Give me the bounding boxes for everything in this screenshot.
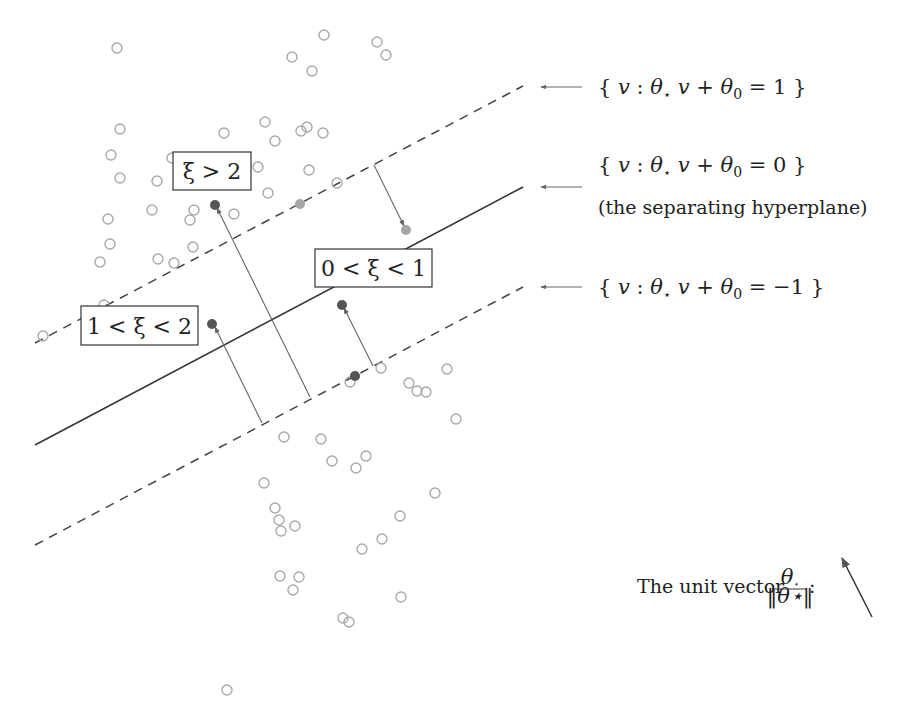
data-point <box>189 205 199 215</box>
data-point <box>106 150 116 160</box>
data-point <box>376 363 386 373</box>
data-point <box>287 52 297 62</box>
data-point <box>115 173 125 183</box>
slack-arrow <box>217 208 310 397</box>
slack-arrow <box>215 327 262 423</box>
data-point <box>442 364 452 374</box>
label-pointer-arrows <box>541 87 582 287</box>
svg-text:{ v : θ⋆ v + θ0 = 1 }: { v : θ⋆ v + θ0 = 1 } <box>598 75 806 102</box>
slack-point <box>207 319 217 329</box>
data-point <box>105 239 115 249</box>
box-xi-1-2: 1 < ξ < 2 <box>81 306 198 345</box>
data-point <box>185 215 195 225</box>
data-point <box>95 257 105 267</box>
data-point <box>395 511 405 521</box>
svg-text:ξ > 2: ξ > 2 <box>183 159 242 184</box>
data-point <box>152 176 162 186</box>
svg-text:0 < ξ < 1: 0 < ξ < 1 <box>321 256 426 281</box>
data-point <box>304 165 314 175</box>
data-point <box>270 503 280 513</box>
data-point <box>451 414 461 424</box>
data-point <box>219 128 229 138</box>
margin-point <box>401 225 411 235</box>
unit-vector-arrow-icon <box>842 558 872 617</box>
hyperplane-sublabel: (the separating hyperplane) <box>598 196 868 218</box>
box-xi-gt-2: ξ > 2 <box>173 152 251 190</box>
upper-margin-label: { v : θ⋆ v + θ0 = 1 } <box>598 75 806 102</box>
data-point <box>115 124 125 134</box>
data-point <box>274 515 284 525</box>
data-point <box>169 258 179 268</box>
data-point <box>318 128 328 138</box>
margin-point <box>295 199 305 209</box>
slack-range-boxes: ξ > 21 < ξ < 20 < ξ < 1 <box>81 152 432 345</box>
data-point <box>288 585 298 595</box>
data-point <box>103 214 113 224</box>
data-point <box>275 571 285 581</box>
slack-point <box>337 300 347 310</box>
box-xi-0-1: 0 < ξ < 1 <box>315 249 432 287</box>
data-point <box>222 685 232 695</box>
data-point <box>307 66 317 76</box>
data-point <box>404 378 414 388</box>
slack-point <box>210 200 220 210</box>
data-point <box>153 254 163 264</box>
unit-vector-label: The unit vector θ⋆ ‖θ⋆‖ : <box>637 565 815 609</box>
data-point <box>147 205 157 215</box>
svm-diagram: ξ > 21 < ξ < 20 < ξ < 1 { v : θ⋆ v + θ0 … <box>0 0 923 723</box>
slack-arrows <box>215 165 404 423</box>
hyperplane-label: { v : θ⋆ v + θ0 = 0 } (the separating hy… <box>598 153 868 218</box>
svg-text:{ v : θ⋆ v + θ0 = 0 }: { v : θ⋆ v + θ0 = 0 } <box>598 153 806 180</box>
data-point <box>396 592 406 602</box>
data-point <box>253 162 263 172</box>
svg-text::: : <box>809 575 815 597</box>
support-violating-points <box>207 199 411 381</box>
data-point <box>381 50 391 60</box>
data-point <box>351 463 361 473</box>
data-point <box>188 242 198 252</box>
svg-text:‖θ⋆‖: ‖θ⋆‖ <box>767 584 814 609</box>
data-point <box>430 488 440 498</box>
slack-arrow <box>374 165 404 226</box>
data-point <box>332 178 342 188</box>
data-point <box>316 434 326 444</box>
data-point <box>270 136 280 146</box>
data-point <box>372 37 382 47</box>
svg-text:1 < ξ < 2: 1 < ξ < 2 <box>87 314 192 339</box>
data-point <box>259 478 269 488</box>
data-point <box>361 451 371 461</box>
diagram-canvas: ξ > 21 < ξ < 20 < ξ < 1 { v : θ⋆ v + θ0 … <box>0 0 923 723</box>
data-point <box>290 521 300 531</box>
slack-point <box>350 371 360 381</box>
data-point <box>229 209 239 219</box>
data-point <box>357 544 367 554</box>
data-point <box>276 526 286 536</box>
data-point <box>263 188 273 198</box>
data-point <box>319 30 329 40</box>
data-point <box>112 43 122 53</box>
data-point <box>279 432 289 442</box>
data-point <box>260 117 270 127</box>
data-point <box>327 456 337 466</box>
data-point <box>377 534 387 544</box>
svg-text:The unit vector: The unit vector <box>637 575 785 597</box>
data-point <box>294 572 304 582</box>
lower-margin-label: { v : θ⋆ v + θ0 = −1 } <box>598 275 824 302</box>
hollow-data-points <box>38 30 461 695</box>
svg-text:{ v : θ⋆ v + θ0 = −1 }: { v : θ⋆ v + θ0 = −1 } <box>598 275 824 302</box>
slack-arrow <box>344 308 373 366</box>
